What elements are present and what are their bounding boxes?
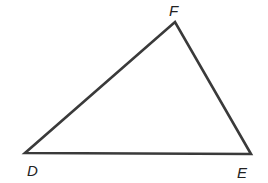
vertex-label-d: D (27, 162, 38, 179)
vertex-label-e: E (237, 164, 248, 181)
vertex-label-f: F (169, 2, 179, 19)
triangle-def (25, 22, 251, 154)
triangle-diagram: D E F (0, 0, 268, 183)
triangle-svg: D E F (0, 0, 268, 183)
